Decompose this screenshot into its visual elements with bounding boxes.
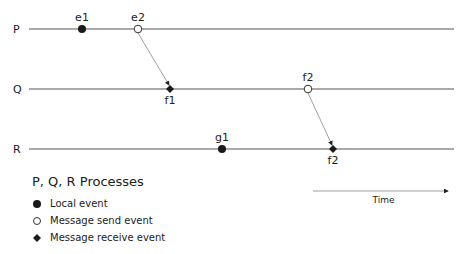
legend-item-local-event: Local event (32, 195, 165, 212)
event-label: f2 (303, 71, 314, 84)
receive-event-marker (166, 85, 174, 93)
local-event-marker (218, 145, 226, 153)
receive-event-marker (329, 145, 337, 153)
process-label: Q (13, 83, 22, 96)
legend-label: Local event (50, 198, 108, 209)
legend-item-send-event: Message send event (32, 212, 165, 229)
event-label: f2 (328, 154, 339, 167)
local-event-marker (78, 25, 86, 33)
send-event-marker (134, 25, 142, 33)
time-label: Time (371, 195, 394, 205)
message-arrow (308, 93, 332, 145)
legend-title: P, Q, R Processes (32, 174, 165, 189)
event-label: e2 (131, 11, 145, 24)
legend-item-receive-event: Message receive event (32, 229, 165, 246)
process-label: R (13, 143, 21, 156)
event-label: e1 (75, 11, 89, 24)
diamond-icon (32, 233, 42, 243)
message-arrow (138, 33, 169, 85)
event-label: g1 (215, 131, 229, 144)
event-label: f1 (165, 94, 176, 107)
legend-label: Message receive event (50, 232, 165, 243)
filled-circle-icon (32, 199, 42, 209)
open-circle-icon (32, 216, 42, 226)
legend-label: Message send event (50, 215, 153, 226)
send-event-marker (304, 85, 312, 93)
legend: P, Q, R Processes Local event Message se… (32, 174, 165, 246)
process-label: P (13, 23, 20, 36)
